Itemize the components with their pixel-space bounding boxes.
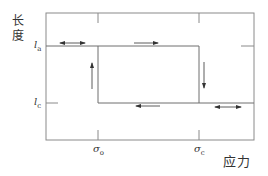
x-tick-sigma-c: σc [194, 143, 205, 157]
x-axis-label: 应力 [223, 151, 251, 170]
x-tick-sigma-o: σo [93, 143, 104, 157]
plot-frame [46, 13, 254, 140]
hysteresis-diagram [0, 0, 268, 176]
y-tick-lc: lc [34, 96, 41, 110]
y-tick-la: la [34, 39, 41, 53]
y-axis-label: 长度 [12, 14, 26, 44]
